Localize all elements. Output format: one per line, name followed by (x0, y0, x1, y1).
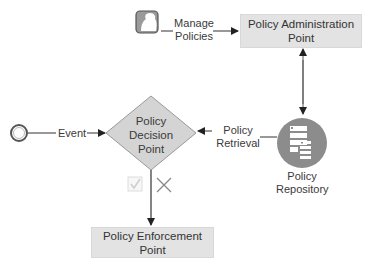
start-event[interactable] (11, 125, 27, 141)
pep-label: Policy Enforcement Point (92, 229, 213, 257)
user-profile-icon[interactable] (136, 11, 158, 33)
check-icon (128, 177, 142, 191)
manage-policies-label: Manage Policies (174, 17, 214, 43)
policy-enforcement-point[interactable]: Policy Enforcement Point (91, 227, 214, 258)
repository-node[interactable] (277, 118, 327, 168)
cross-icon (157, 178, 171, 192)
policy-administration-point[interactable]: Policy Administration Point (240, 14, 362, 48)
policy-repository-label: Policy Repository (276, 170, 328, 196)
policy-retrieval-label: Policy Retrieval (214, 124, 262, 150)
pap-label: Policy Administration Point (241, 17, 361, 45)
event-label: Event (56, 127, 88, 140)
pdp-label: Policy Decision Point (126, 114, 176, 156)
